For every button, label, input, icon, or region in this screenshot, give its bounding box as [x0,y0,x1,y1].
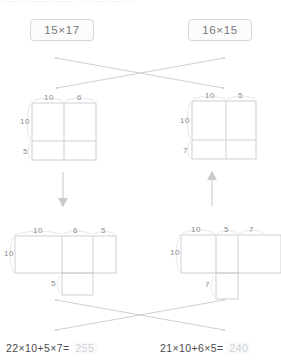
equation-left-answer[interactable]: 255 [73,342,98,354]
decomposed-right-side-label: 10 [170,248,180,257]
decomposed-figure-right [181,235,281,299]
area-grid-left-side-label-2: 5 [23,147,28,156]
decomposed-left-top-label-1: 10 [33,226,43,235]
equation-left: 22×10+5×7= 255 [6,342,97,354]
decomposed-left-top-label-3: 5 [101,226,106,235]
area-grid-left-leaders [27,98,95,159]
area-grid-right-top-label-2: 5 [238,91,243,100]
decomposed-right-top-label-1: 10 [191,225,201,234]
equation-right-answer[interactable]: 240 [227,342,252,354]
decomposed-figure-right-leaders [176,230,265,296]
area-grid-right-leaders [187,96,255,158]
diagram-lines-layer [0,0,281,363]
decomposed-right-top-label-2: 5 [224,225,229,234]
decomposed-left-bottom-label: 5 [51,279,56,288]
area-grid-left-side-label-1: 10 [20,117,30,126]
worksheet-canvas: —— ——— —— — —— — — 15×17 16×15 [0,0,281,363]
decomposed-right-bottom-label: 7 [205,280,210,289]
connector-cross-top [56,58,224,88]
decomposed-right-top-label-3: 7 [249,225,254,234]
area-grid-right-side-label-2: 7 [183,146,188,155]
area-grid-right [192,101,256,159]
equation-right-expression: 21×10+6×5= [160,342,224,354]
connector-cross-bottom [56,300,224,330]
area-grid-left [32,103,96,160]
area-grid-left-top-label-1: 10 [44,93,54,102]
equation-left-expression: 22×10+5×7= [6,342,70,354]
decomposed-figure-left [15,236,116,295]
decomposed-figure-left-leaders [10,231,115,293]
equation-right: 21×10+6×5= 240 [160,342,251,354]
area-grid-right-top-label-1: 10 [205,91,215,100]
area-grid-right-side-label-1: 10 [180,116,190,125]
decomposed-left-side-label: 10 [4,249,14,258]
decomposed-left-top-label-2: 6 [73,226,78,235]
area-grid-left-top-label-2: 6 [77,93,82,102]
